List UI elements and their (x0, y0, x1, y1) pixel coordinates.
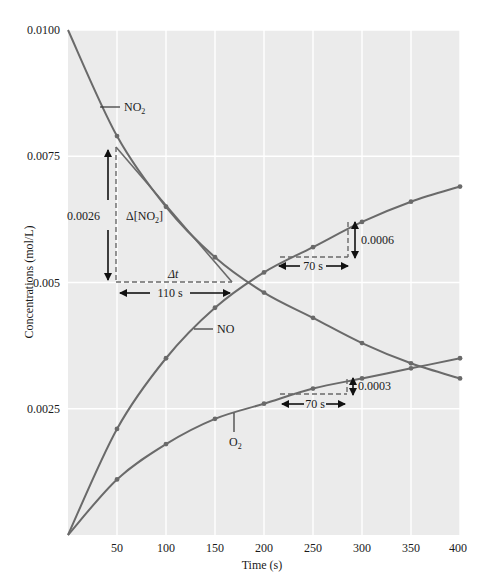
delta-conc-label: 0.0026 (67, 209, 100, 223)
x-tick-label: 200 (255, 541, 273, 555)
data-point (115, 427, 120, 432)
concentration-time-chart: 0.0100 0.0075 0.005 0.0025 Concentration… (0, 0, 483, 582)
y-axis-label: Concentrations (mol/L) (22, 226, 36, 339)
data-point (458, 376, 463, 381)
data-point (164, 356, 169, 361)
data-point (311, 386, 316, 391)
data-point (311, 315, 316, 320)
y-tick-label: 0.0075 (27, 149, 60, 163)
delta-conc-label: 0.0003 (358, 379, 391, 393)
x-tick-label: 350 (402, 541, 420, 555)
data-point (213, 305, 218, 310)
delta-t-label: 70 s (303, 259, 323, 273)
data-point (115, 477, 120, 482)
data-point (164, 442, 169, 447)
delta-t-label: 110 s (157, 286, 183, 300)
x-tick-label: 150 (206, 541, 224, 555)
x-tick-label: 250 (304, 541, 322, 555)
y-tick-label: 0.005 (33, 276, 60, 290)
data-point (458, 356, 463, 361)
x-tick-label: 300 (353, 541, 371, 555)
data-point (311, 245, 316, 250)
data-point (262, 270, 267, 275)
x-axis-label: Time (s) (242, 558, 283, 572)
y-tick-label: 0.0025 (27, 402, 60, 416)
x-axis: 50 100 150 200 250 300 350 400 Time (s) (111, 541, 467, 572)
delta-conc-label: 0.0006 (361, 233, 394, 247)
data-point (213, 416, 218, 421)
data-point (409, 366, 414, 371)
data-point (360, 341, 365, 346)
data-point (409, 199, 414, 204)
data-point (458, 184, 463, 189)
data-point (262, 290, 267, 295)
x-tick-label: 50 (111, 541, 123, 555)
y-tick-label: 0.0100 (27, 23, 60, 37)
data-point (409, 361, 414, 366)
x-tick-label: 100 (157, 541, 175, 555)
data-point (262, 401, 267, 406)
y-axis: 0.0100 0.0075 0.005 0.0025 Concentration… (22, 23, 60, 416)
x-tick-label: 400 (449, 541, 467, 555)
data-point (115, 134, 120, 139)
data-point (360, 220, 365, 225)
delta-t-symbol: Δt (167, 267, 179, 281)
delta-t-label: 70 s (305, 397, 325, 411)
data-point (213, 255, 218, 260)
svg-text:NO: NO (217, 322, 235, 336)
